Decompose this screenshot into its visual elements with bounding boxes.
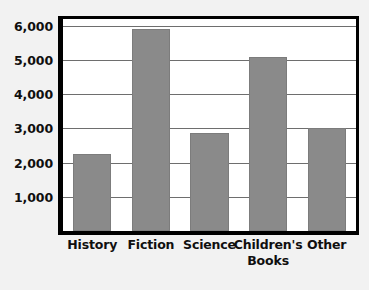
y-axis-tick-label: 6,000 [14, 18, 53, 33]
y-axis-tick-label: 1,000 [14, 189, 53, 204]
x-axis: HistoryFictionScienceChildren's BooksOth… [58, 237, 359, 290]
bar-chart-figure: 1,0002,0003,0004,0005,0006,000 HistoryFi… [0, 0, 369, 290]
x-axis-tick-label: Other [291, 237, 363, 253]
y-axis-tick-label: 4,000 [14, 87, 53, 102]
bar [308, 128, 346, 231]
y-axis: 1,0002,0003,0004,0005,0006,000 [0, 0, 57, 290]
bars-group [63, 19, 356, 231]
plot-area [58, 16, 359, 235]
bar [249, 57, 287, 231]
bar [190, 133, 228, 231]
bar [73, 154, 111, 231]
y-axis-tick-label: 2,000 [14, 155, 53, 170]
plot-inner [63, 19, 356, 231]
y-axis-tick-label: 5,000 [14, 53, 53, 68]
y-axis-tick-label: 3,000 [14, 121, 53, 136]
bar [132, 29, 170, 231]
